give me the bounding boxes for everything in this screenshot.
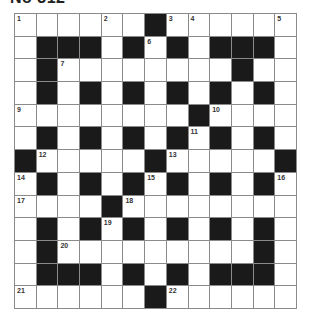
answer-cell[interactable]: 12 — [37, 150, 58, 172]
answer-cell[interactable] — [189, 82, 210, 104]
answer-cell[interactable] — [102, 173, 123, 195]
answer-cell[interactable] — [145, 82, 166, 104]
answer-cell[interactable] — [15, 218, 36, 240]
answer-cell[interactable] — [102, 82, 123, 104]
answer-cell[interactable] — [210, 196, 231, 218]
answer-cell[interactable] — [275, 82, 296, 104]
answer-cell[interactable] — [123, 59, 144, 81]
answer-cell[interactable] — [232, 218, 253, 240]
answer-cell[interactable]: 21 — [15, 286, 36, 308]
answer-cell[interactable] — [15, 82, 36, 104]
answer-cell[interactable] — [58, 196, 79, 218]
answer-cell[interactable] — [275, 59, 296, 81]
answer-cell[interactable] — [58, 218, 79, 240]
answer-cell[interactable] — [102, 105, 123, 127]
answer-cell[interactable] — [15, 59, 36, 81]
answer-cell[interactable]: 10 — [210, 105, 231, 127]
answer-cell[interactable]: 16 — [275, 173, 296, 195]
answer-cell[interactable] — [58, 286, 79, 308]
answer-cell[interactable] — [189, 286, 210, 308]
answer-cell[interactable] — [167, 59, 188, 81]
answer-cell[interactable] — [80, 196, 101, 218]
answer-cell[interactable] — [102, 150, 123, 172]
answer-cell[interactable] — [210, 241, 231, 263]
answer-cell[interactable]: 6 — [145, 37, 166, 59]
answer-cell[interactable] — [102, 241, 123, 263]
answer-cell[interactable] — [102, 127, 123, 149]
answer-cell[interactable]: 3 — [167, 14, 188, 36]
answer-cell[interactable] — [210, 59, 231, 81]
answer-cell[interactable] — [189, 173, 210, 195]
answer-cell[interactable] — [80, 286, 101, 308]
answer-cell[interactable] — [15, 241, 36, 263]
answer-cell[interactable] — [145, 264, 166, 286]
answer-cell[interactable] — [15, 127, 36, 149]
answer-cell[interactable] — [210, 150, 231, 172]
answer-cell[interactable] — [145, 196, 166, 218]
answer-cell[interactable] — [58, 173, 79, 195]
answer-cell[interactable] — [189, 218, 210, 240]
answer-cell[interactable] — [275, 264, 296, 286]
answer-cell[interactable] — [232, 127, 253, 149]
answer-cell[interactable] — [254, 196, 275, 218]
answer-cell[interactable] — [275, 37, 296, 59]
answer-cell[interactable] — [15, 37, 36, 59]
answer-cell[interactable] — [58, 127, 79, 149]
answer-cell[interactable] — [275, 241, 296, 263]
answer-cell[interactable] — [232, 150, 253, 172]
answer-cell[interactable] — [123, 150, 144, 172]
answer-cell[interactable] — [232, 286, 253, 308]
answer-cell[interactable] — [232, 241, 253, 263]
answer-cell[interactable] — [102, 59, 123, 81]
answer-cell[interactable] — [210, 14, 231, 36]
answer-cell[interactable] — [123, 14, 144, 36]
answer-cell[interactable] — [232, 173, 253, 195]
answer-cell[interactable]: 1 — [15, 14, 36, 36]
answer-cell[interactable]: 9 — [15, 105, 36, 127]
answer-cell[interactable]: 13 — [167, 150, 188, 172]
answer-cell[interactable] — [145, 59, 166, 81]
answer-cell[interactable] — [123, 105, 144, 127]
answer-cell[interactable] — [80, 14, 101, 36]
answer-cell[interactable] — [145, 218, 166, 240]
answer-cell[interactable] — [145, 105, 166, 127]
answer-cell[interactable] — [210, 286, 231, 308]
answer-cell[interactable] — [275, 286, 296, 308]
answer-cell[interactable] — [189, 59, 210, 81]
answer-cell[interactable]: 7 — [58, 59, 79, 81]
answer-cell[interactable] — [123, 286, 144, 308]
answer-cell[interactable]: 14 — [15, 173, 36, 195]
answer-cell[interactable] — [232, 14, 253, 36]
answer-cell[interactable] — [80, 150, 101, 172]
answer-cell[interactable] — [15, 264, 36, 286]
answer-cell[interactable] — [102, 264, 123, 286]
answer-cell[interactable]: 15 — [145, 173, 166, 195]
answer-cell[interactable] — [58, 82, 79, 104]
answer-cell[interactable] — [232, 82, 253, 104]
answer-cell[interactable] — [167, 105, 188, 127]
answer-cell[interactable]: 4 — [189, 14, 210, 36]
answer-cell[interactable]: 22 — [167, 286, 188, 308]
answer-cell[interactable] — [102, 37, 123, 59]
answer-cell[interactable] — [80, 59, 101, 81]
answer-cell[interactable] — [145, 241, 166, 263]
answer-cell[interactable] — [275, 105, 296, 127]
answer-cell[interactable] — [80, 105, 101, 127]
answer-cell[interactable] — [189, 196, 210, 218]
answer-cell[interactable] — [58, 105, 79, 127]
answer-cell[interactable] — [232, 196, 253, 218]
answer-cell[interactable]: 2 — [102, 14, 123, 36]
answer-cell[interactable] — [189, 37, 210, 59]
answer-cell[interactable] — [275, 218, 296, 240]
answer-cell[interactable] — [167, 196, 188, 218]
answer-cell[interactable]: 18 — [123, 196, 144, 218]
answer-cell[interactable] — [275, 196, 296, 218]
answer-cell[interactable]: 11 — [189, 127, 210, 149]
answer-cell[interactable] — [37, 286, 58, 308]
answer-cell[interactable] — [275, 127, 296, 149]
answer-cell[interactable] — [189, 241, 210, 263]
answer-cell[interactable] — [37, 196, 58, 218]
answer-cell[interactable] — [254, 14, 275, 36]
answer-cell[interactable] — [232, 105, 253, 127]
answer-cell[interactable] — [254, 105, 275, 127]
